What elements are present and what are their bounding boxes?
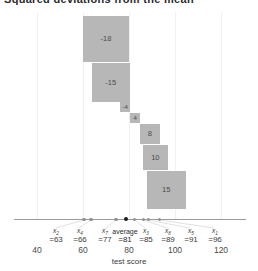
point-variable-name: x3 (143, 227, 149, 234)
data-point-dot (89, 218, 92, 221)
point-value: =77 (98, 235, 112, 244)
data-point-dot (147, 218, 150, 221)
deviation-square: -15 (92, 63, 131, 102)
point-variable-name: x1 (212, 227, 218, 234)
x-tick-label: 40 (22, 245, 52, 255)
data-point-dot (133, 218, 136, 221)
plot-panel: -18 -15 -4 4 8 10 15 (21, 12, 237, 220)
point-label: x8 =89 (156, 227, 180, 245)
deviation-square: 10 (143, 145, 169, 171)
point-value: =66 (73, 235, 87, 244)
deviation-square-label: 8 (148, 130, 152, 138)
point-value: =91 (184, 235, 198, 244)
squared-deviations-figure: Squared deviations from the mean -18 -15… (0, 0, 258, 271)
point-value: =89 (161, 235, 175, 244)
point-label: x5 =91 (179, 227, 203, 245)
deviation-square-label: -15 (105, 79, 116, 87)
data-point-dot (142, 218, 145, 221)
data-point-dot (158, 218, 161, 221)
point-variable-name: x7 (102, 227, 108, 234)
point-label: x1 =96 (203, 227, 227, 245)
page-title: Squared deviations from the mean (4, 0, 194, 5)
point-variable-name: x2 (53, 227, 59, 234)
data-point-dot (82, 218, 85, 221)
deviation-square: 15 (147, 171, 186, 210)
point-label: x3 =85 (134, 227, 158, 245)
deviation-square: 8 (140, 124, 161, 145)
x-tick-label: 80 (114, 245, 144, 255)
point-variable-name: x4 (77, 227, 83, 234)
figure-title-strip: Squared deviations from the mean (0, 0, 258, 9)
deviation-square-label: -4 (122, 104, 127, 110)
deviation-squares-group: -18 -15 -4 4 8 10 15 (21, 12, 237, 220)
deviation-square-label: -18 (101, 35, 112, 43)
deviation-square-label: 15 (162, 186, 170, 194)
x-tick-label: 100 (160, 245, 190, 255)
data-point-dot (114, 218, 117, 221)
axis-line (14, 219, 246, 220)
point-variable-name: x5 (188, 227, 194, 234)
point-label: x2 =63 (44, 227, 68, 245)
deviation-square: -4 (120, 102, 130, 112)
point-value: =85 (139, 235, 153, 244)
x-axis-label: test score (0, 257, 258, 266)
x-tick-label: 120 (206, 245, 236, 255)
point-label: x4 =66 (68, 227, 92, 245)
mean-value: =81 (118, 235, 132, 244)
point-value: =63 (49, 235, 63, 244)
deviation-square-label: 4 (133, 115, 136, 121)
mean-point-dot (124, 217, 128, 221)
deviation-square-label: 10 (151, 154, 159, 162)
deviation-square: 4 (130, 113, 140, 123)
point-variable-name: x8 (165, 227, 171, 234)
x-tick-label: 60 (68, 245, 98, 255)
deviation-square: -18 (83, 16, 129, 62)
point-value: =96 (208, 235, 222, 244)
